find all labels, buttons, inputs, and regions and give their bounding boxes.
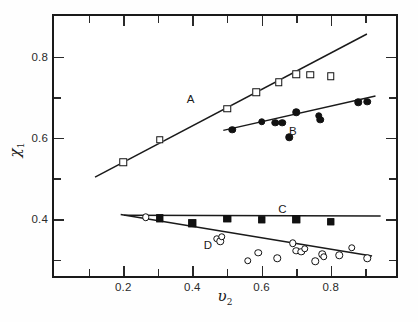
series-label-a: A [187,93,195,105]
data-point-a [306,71,314,79]
data-point-b [317,116,325,124]
data-point-a [253,89,261,97]
data-point-d [311,258,319,266]
data-point-a [156,136,164,144]
series-label-d: D [204,239,212,251]
data-point-c [156,215,164,223]
data-point-b [363,98,371,106]
x-axis-title: υ2 [218,287,233,307]
data-point-d [254,249,262,257]
data-point-d [336,251,344,259]
data-point-d [142,213,150,221]
data-point-d [301,245,309,253]
data-point-c [223,215,231,223]
data-point-a [292,71,300,79]
y-tick-label: 0.4 [31,213,48,225]
data-point-a [119,158,127,166]
data-point-b [292,109,300,117]
x-tick-label: 0.6 [253,281,270,293]
data-point-d [348,244,356,252]
x-tick-label: 0.8 [323,281,340,293]
data-point-b [279,119,287,127]
data-point-b [355,98,363,106]
y-tick-label: 0.8 [31,51,48,63]
data-point-a [223,105,231,113]
data-point-b [258,118,266,126]
x-tick-label: 0.2 [115,281,132,293]
data-point-d [273,255,281,263]
y-tick-label: 0.6 [31,132,48,144]
data-point-c [189,219,197,227]
data-point-d [244,257,252,265]
series-label-b: B [289,125,297,137]
figure-container: 0.40.60.8 0.20.40.60.8 ABCD χ1 υ2 [0,0,418,322]
data-point-a [275,78,283,86]
plot-frame: 0.40.60.8 0.20.40.60.8 ABCD [52,14,398,278]
data-point-d [363,255,371,263]
x-tick-label: 0.4 [184,281,201,293]
data-point-a [327,72,335,80]
data-point-d [218,233,226,241]
series-label-c: C [278,203,286,215]
data-point-c [327,218,335,226]
data-point-b [228,126,236,134]
data-point-d [320,253,328,261]
y-axis-title: χ1 [6,143,26,158]
data-point-c [292,216,300,224]
data-point-c [258,216,266,224]
data-points-layer: ABCD [54,16,396,276]
